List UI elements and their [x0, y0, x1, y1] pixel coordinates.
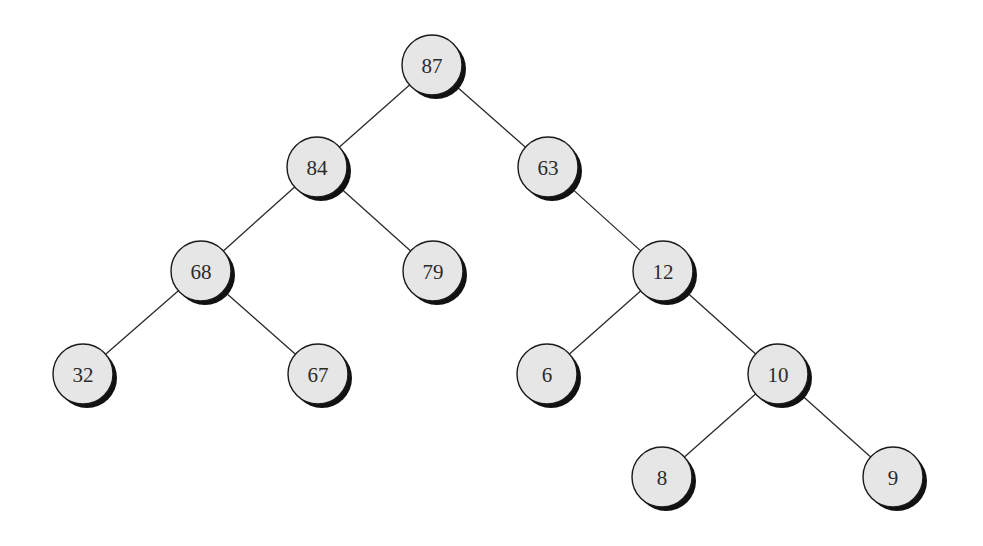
node-label: 87	[422, 54, 443, 78]
tree-node-8: 8	[632, 447, 696, 511]
tree-edge-68-32	[106, 291, 179, 355]
tree-diagram: 878463687912326761089	[0, 0, 983, 546]
tree-node-79: 79	[403, 241, 467, 305]
tree-edge-12-10	[685, 291, 755, 354]
tree-node-84: 84	[287, 137, 351, 201]
tree-edge-10-8	[684, 394, 755, 457]
tree-edge-87-84	[339, 85, 409, 147]
tree-edge-63-12	[570, 187, 640, 251]
node-label: 67	[308, 363, 329, 387]
nodes-layer: 878463687912326761089	[53, 35, 927, 511]
node-label: 8	[657, 466, 668, 490]
node-label: 32	[73, 363, 94, 387]
tree-node-63: 63	[518, 137, 582, 201]
tree-edge-87-63	[455, 85, 526, 147]
node-label: 12	[653, 260, 674, 284]
node-label: 84	[307, 156, 329, 180]
node-label: 68	[191, 260, 212, 284]
tree-edge-84-79	[339, 187, 410, 251]
tree-edge-84-68	[223, 187, 294, 251]
tree-node-67: 67	[288, 344, 352, 408]
node-label: 9	[888, 466, 899, 490]
tree-edge-12-6	[569, 291, 640, 354]
tree-node-12: 12	[633, 241, 697, 305]
node-label: 6	[542, 363, 553, 387]
tree-node-9: 9	[863, 447, 927, 511]
tree-node-68: 68	[171, 241, 235, 305]
node-label: 79	[423, 260, 444, 284]
tree-edge-68-67	[224, 291, 296, 354]
tree-node-10: 10	[748, 344, 812, 408]
tree-node-87: 87	[402, 35, 466, 99]
tree-edge-10-9	[800, 394, 870, 457]
node-label: 10	[768, 363, 789, 387]
tree-node-32: 32	[53, 344, 117, 408]
tree-node-6: 6	[517, 344, 581, 408]
node-label: 63	[538, 156, 559, 180]
